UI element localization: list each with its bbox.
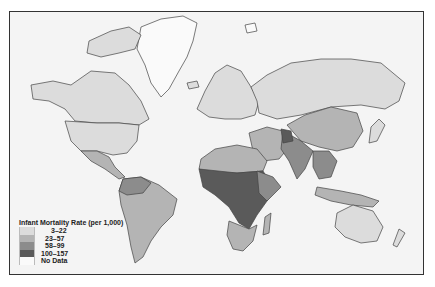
legend-item-23-57: 23–57 <box>19 235 123 243</box>
region-mexico <box>81 151 125 179</box>
legend-item-58-99: 58–99 <box>19 242 123 250</box>
legend-label: 58–99 <box>45 242 64 249</box>
region-australia <box>335 205 383 243</box>
region-europe <box>197 65 259 119</box>
region-svalbard <box>245 23 257 33</box>
region-canada <box>31 71 149 125</box>
legend-title: Infant Mortality Rate (per 1,000) <box>19 219 123 226</box>
region-madagascar <box>263 213 271 235</box>
legend-swatch <box>19 235 35 243</box>
legend-label: 23–57 <box>45 235 64 242</box>
legend-label: 3–22 <box>51 227 67 234</box>
legend-label: No Data <box>41 257 67 264</box>
legend-swatch <box>19 257 35 265</box>
legend-label: 100–157 <box>41 250 68 257</box>
legend-swatch <box>19 250 35 258</box>
region-iceland <box>187 81 199 89</box>
legend-item-no-data: No Data <box>19 257 123 265</box>
legend-swatch <box>19 242 35 250</box>
region-southern-africa <box>227 221 257 251</box>
region-usa <box>65 121 139 155</box>
region-north-africa <box>199 145 267 173</box>
map-legend: Infant Mortality Rate (per 1,000) 3–22 2… <box>19 219 123 265</box>
map-frame: Infant Mortality Rate (per 1,000) 3–22 2… <box>9 11 424 275</box>
legend-item-100-157: 100–157 <box>19 250 123 258</box>
region-afghanistan <box>281 129 293 143</box>
region-arctic-canada <box>87 27 141 57</box>
region-indonesia <box>315 187 379 207</box>
legend-item-3-22: 3–22 <box>19 227 123 235</box>
region-japan <box>369 119 385 143</box>
region-southeast-asia <box>313 151 337 179</box>
legend-swatch <box>19 227 35 235</box>
region-new-zealand <box>393 229 405 247</box>
